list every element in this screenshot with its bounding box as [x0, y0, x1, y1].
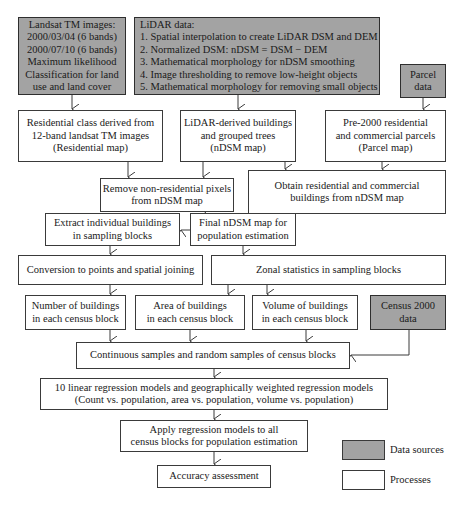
node-line: 12-band landsat TM images — [32, 130, 149, 143]
extract-buildings-box: Extract individual buildings in sampling… — [45, 213, 180, 246]
node-line: census blocks for population estimation — [131, 436, 298, 449]
legend-processes-swatch — [342, 470, 385, 490]
node-line: 4. Image thresholding to remove low-heig… — [140, 69, 357, 82]
node-line: population estimation — [197, 230, 288, 243]
node-line: 2000/03/04 (6 bands) — [27, 31, 117, 44]
landsat-data-box: Landsat TM images: 2000/03/04 (6 bands) … — [18, 17, 126, 95]
node-line: Continuous samples and random samples of… — [90, 349, 336, 362]
node-line: Obtain residential and commercial — [275, 180, 420, 193]
volume-of-buildings-box: Volume of buildings in each census block — [252, 295, 358, 330]
node-line: Maximum likelihood — [28, 56, 117, 69]
node-line: Residential class derived from — [27, 117, 154, 130]
node-line: (Parcel map) — [359, 142, 413, 155]
accuracy-assessment-box: Accuracy assessment — [157, 465, 271, 488]
continuous-samples-box: Continuous samples and random samples of… — [76, 342, 350, 369]
conversion-box: Conversion to points and spatial joining — [18, 255, 203, 285]
node-line: use and land cover — [33, 81, 111, 94]
node-line: in each census block — [262, 313, 349, 326]
node-line: Census 2000 — [381, 300, 435, 313]
node-line: Volume of buildings — [262, 300, 348, 313]
node-line: and grouped trees — [201, 130, 276, 143]
node-line: Classification for land — [25, 69, 118, 82]
node-line: (Residential map) — [53, 142, 128, 155]
regression-models-box: 10 linear regression models and geograph… — [40, 378, 388, 410]
number-of-buildings-box: Number of buildings in each census block — [25, 295, 126, 330]
node-line: 5. Mathematical morphology for removing … — [140, 81, 378, 94]
node-line: Landsat TM images: — [29, 19, 116, 32]
node-line: Apply regression models to all — [150, 424, 279, 437]
node-line: data — [399, 313, 417, 326]
legend-data-sources-swatch — [342, 440, 385, 460]
node-line: Extract individual buildings — [54, 217, 171, 230]
node-line: Parcel — [410, 69, 436, 82]
pre2000-parcels-box: Pre-2000 residential and commercial parc… — [325, 110, 446, 162]
node-line: from nDSM map — [131, 195, 203, 208]
census-data-box: Census 2000 data — [370, 295, 446, 330]
node-line: data — [414, 81, 432, 94]
legend-processes-label: Processes — [390, 474, 431, 485]
node-line: Number of buildings — [32, 300, 120, 313]
residential-class-box: Residential class derived from 12-band l… — [18, 110, 163, 162]
node-line: Remove non-residential pixels — [103, 183, 231, 196]
node-line: in each census block — [147, 313, 234, 326]
node-line: 3. Mathematical morphology for nDSM smoo… — [140, 56, 355, 69]
node-line: LiDAR-derived buildings — [184, 117, 292, 130]
node-line: 2. Normalized DSM: nDSM = DSM − DEM — [140, 44, 327, 57]
node-line: 10 linear regression models and geograph… — [55, 382, 373, 395]
node-line: and commercial parcels — [336, 130, 436, 143]
node-line: Accuracy assessment — [169, 470, 259, 483]
node-line: in each census block — [32, 313, 119, 326]
node-line: LiDAR data: — [140, 19, 195, 32]
final-ndsm-box: Final nDSM map for population estimation — [190, 213, 296, 246]
node-line: (Count vs. population, area vs. populati… — [75, 394, 354, 407]
node-line: 1. Spatial interpolation to create LiDAR… — [140, 31, 378, 44]
legend-data-sources-label: Data sources — [390, 444, 444, 455]
node-line: 2000/07/10 (6 bands) — [27, 44, 117, 57]
node-line: buildings from nDSM map — [290, 192, 403, 205]
lidar-data-box: LiDAR data: 1. Spatial interpolation to … — [134, 17, 380, 95]
area-of-buildings-box: Area of buildings in each census block — [135, 295, 245, 330]
node-line: (nDSM map) — [210, 142, 266, 155]
node-line: Pre-2000 residential — [343, 117, 428, 130]
lidar-derived-box: LiDAR-derived buildings and grouped tree… — [180, 110, 296, 162]
zonal-statistics-box: Zonal statistics in sampling blocks — [211, 255, 446, 285]
node-line: Final nDSM map for — [199, 217, 287, 230]
parcel-data-box: Parcel data — [400, 64, 446, 98]
remove-nonresidential-box: Remove non-residential pixels from nDSM … — [100, 178, 234, 212]
obtain-residential-box: Obtain residential and commercial buildi… — [248, 170, 446, 214]
node-line: Conversion to points and spatial joining — [27, 264, 195, 277]
node-line: Area of buildings — [153, 300, 227, 313]
node-line: in sampling blocks — [73, 230, 152, 243]
apply-regression-box: Apply regression models to all census bl… — [120, 420, 308, 452]
node-line: Zonal statistics in sampling blocks — [256, 264, 401, 277]
